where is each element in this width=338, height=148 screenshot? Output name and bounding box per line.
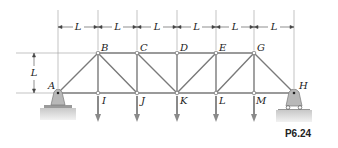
load-arrow-I [95,96,101,122]
label-H: H [298,80,308,91]
height-label: L [30,67,38,78]
load-arrow-J [134,96,140,122]
truss-members [58,53,294,93]
span-label-5: L [231,21,239,32]
joint-pins [96,51,256,95]
figure-caption: P6.24 [285,128,312,139]
label-E: E [218,42,227,53]
span-label-1: L [74,21,82,32]
roller-support-H [276,89,312,122]
span-dimensions [58,26,294,29]
truss-diagram: L L L L L L L [0,0,338,148]
span-label-2: L [113,21,121,32]
label-M: M [255,95,267,106]
span-label-3: L [153,21,161,32]
label-B: B [100,42,108,53]
label-A: A [47,80,55,91]
span-label-6: L [270,21,278,32]
span-label-4: L [192,21,200,32]
label-C: C [140,42,148,53]
label-G: G [257,42,265,53]
label-D: D [179,42,188,53]
label-J: J [139,95,146,106]
load-arrows [95,96,257,122]
label-I: I [101,95,107,106]
label-K: K [179,95,188,106]
label-L: L [218,95,226,106]
